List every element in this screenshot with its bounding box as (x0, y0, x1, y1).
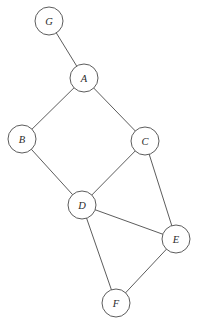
graph-node-label-a: A (80, 73, 88, 84)
graph-edge-e-f (126, 249, 167, 293)
graph-node-b: B (8, 125, 36, 153)
graph-edge-d-e (95, 210, 163, 234)
graph-edge-g-a (56, 33, 76, 66)
node-layer: ABCDEFG (8, 7, 190, 317)
graph-canvas: ABCDEFG (0, 0, 201, 325)
graph-edge-a-b (32, 88, 74, 129)
graph-node-label-b: B (19, 134, 26, 145)
graph-edge-b-d (31, 149, 72, 194)
graph-node-g: G (35, 7, 63, 35)
graph-edge-a-c (94, 88, 136, 131)
edge-layer (31, 33, 171, 293)
graph-node-label-d: D (77, 200, 86, 211)
graph-node-a: A (70, 64, 98, 92)
graph-node-c: C (131, 127, 159, 155)
graph-node-label-g: G (45, 16, 53, 27)
graph-node-e: E (162, 225, 190, 253)
graph-node-label-c: C (141, 136, 149, 147)
graph-figure: ABCDEFG (0, 0, 201, 325)
graph-node-label-f: F (112, 298, 120, 309)
graph-edge-d-f (87, 218, 112, 290)
graph-node-d: D (68, 191, 96, 219)
graph-node-f: F (102, 289, 130, 317)
graph-edge-c-d (92, 151, 135, 195)
graph-node-label-e: E (172, 234, 180, 245)
graph-edge-c-e (149, 154, 172, 225)
